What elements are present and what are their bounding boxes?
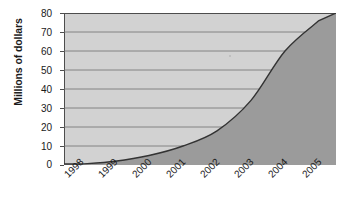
x-tick-label-2000: 2000 [130, 156, 154, 180]
x-tick-label-1999: 1999 [96, 156, 120, 180]
x-tick-label-2001: 2001 [164, 156, 188, 180]
x-tick-label-2005: 2005 [300, 156, 324, 180]
x-tick-label-2002: 2002 [198, 156, 222, 180]
chart-container: Millions of dollars 80 70 60 50 40 30 20… [0, 0, 351, 215]
x-tick-label-2003: 2003 [232, 156, 256, 180]
x-tick-label-2004: 2004 [266, 156, 290, 180]
x-axis-tick-group: 1998 1999 2000 2001 2002 2003 2004 2005 [0, 0, 351, 215]
x-tick-label-1998: 1998 [62, 156, 86, 180]
